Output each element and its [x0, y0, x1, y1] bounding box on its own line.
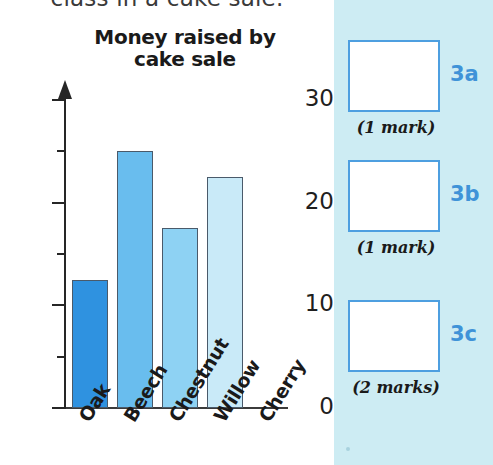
answer-box-3c[interactable]: [348, 300, 440, 372]
y-tick-label-10: 10: [290, 290, 334, 316]
y-tick-label-0: 0: [290, 393, 334, 419]
y-axis-arrow-icon: [58, 80, 72, 99]
bar-chart-figure: Money raised by cake sale 0102030 OakBee…: [0, 0, 334, 465]
answer-code-3a: 3a: [450, 62, 478, 86]
y-tick-label-30: 30: [290, 85, 334, 111]
answer-code-3c: 3c: [450, 322, 477, 346]
y-tick-minor-25: [57, 150, 66, 152]
y-tick-minor-5: [57, 356, 66, 358]
plot-area: 0102030 OakBeechChestnutWillowCherry: [0, 0, 334, 465]
answer-panel: 3a(1 mark)3b(1 mark)3c(2 marks): [334, 0, 493, 465]
answer-box-3a[interactable]: [348, 40, 440, 112]
y-tick-major-20: [52, 202, 66, 204]
answer-marks-3a: (1 mark): [348, 118, 444, 137]
answer-marks-3c: (2 marks): [348, 378, 444, 397]
y-tick-minor-15: [57, 253, 66, 255]
answer-box-3b[interactable]: [348, 160, 440, 232]
y-tick-major-10: [52, 304, 66, 306]
y-tick-label-20: 20: [290, 188, 334, 214]
paper-speck: [346, 447, 350, 451]
y-tick-major-0: [52, 407, 66, 409]
y-tick-major-30: [52, 99, 66, 101]
answer-marks-3b: (1 mark): [348, 238, 444, 257]
y-axis-line: [64, 96, 66, 408]
answer-code-3b: 3b: [450, 182, 479, 206]
